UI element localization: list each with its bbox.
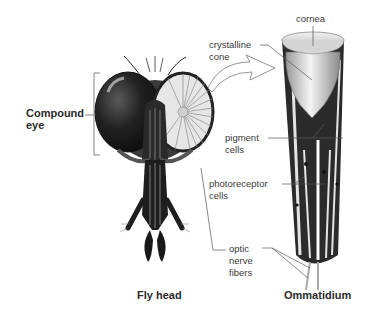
ommatidium-illustration [282, 32, 344, 290]
label-compound-eye: Compound eye [26, 107, 84, 131]
label-optic-nerve-fibers: optic nerve fibers [229, 243, 253, 279]
label-crystalline-cone: crystalline cone [209, 39, 251, 63]
label-photoreceptor-cells: photoreceptor cells [209, 178, 268, 202]
label-cornea: cornea [296, 13, 325, 25]
title-ommatidium: Ommatidium [284, 289, 351, 301]
title-fly-head: Fly head [137, 289, 182, 301]
diagram-artwork [0, 0, 375, 320]
label-pigment-cells: pigment cells [225, 132, 259, 156]
fly-head-illustration [95, 56, 213, 262]
